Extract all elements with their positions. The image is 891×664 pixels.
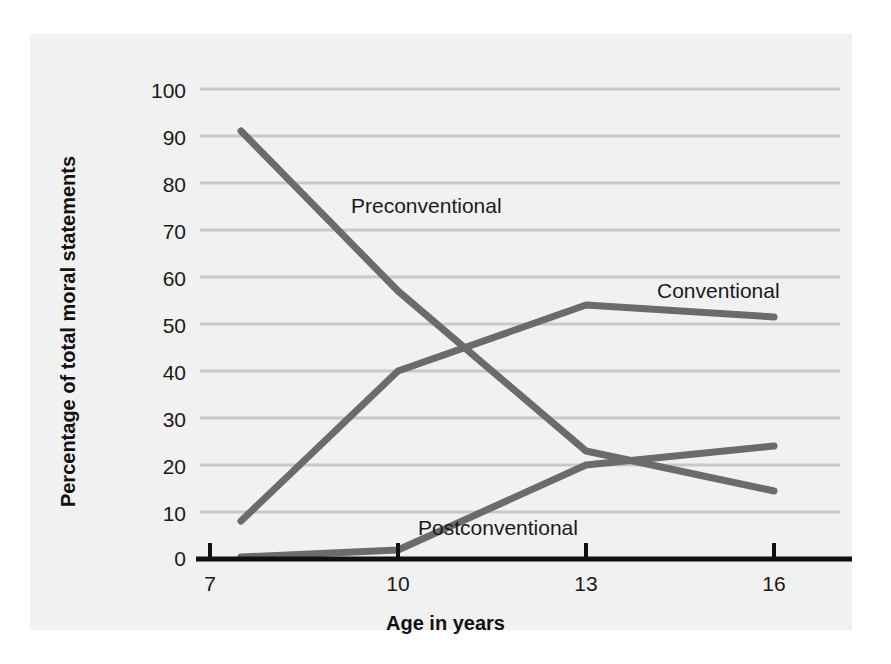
ytick-label-60: 60 xyxy=(126,268,186,289)
ytick-label-10: 10 xyxy=(126,503,186,524)
ytick-label-50: 50 xyxy=(126,315,186,336)
x-axis-title: Age in years xyxy=(0,612,891,635)
series-line-conventional xyxy=(241,305,774,521)
ytick-label-70: 70 xyxy=(126,221,186,242)
xtick-label-7: 7 xyxy=(180,573,240,594)
ytick-label-100: 100 xyxy=(126,80,186,101)
ytick-label-40: 40 xyxy=(126,362,186,383)
chart-figure: 100 90 80 70 60 50 40 30 20 10 0 7 10 13… xyxy=(0,0,891,664)
xtick-label-13: 13 xyxy=(556,573,616,594)
series-label-preconventional: Preconventional xyxy=(351,195,502,216)
y-axis-title: Percentage of total moral statements xyxy=(57,122,80,542)
xtick-label-16: 16 xyxy=(744,573,804,594)
xtick-label-10: 10 xyxy=(368,573,428,594)
series-label-conventional: Conventional xyxy=(657,280,780,301)
ytick-label-30: 30 xyxy=(126,409,186,430)
series-line-postconventional xyxy=(241,446,774,557)
ytick-label-0: 0 xyxy=(126,548,186,569)
ytick-label-20: 20 xyxy=(126,456,186,477)
ytick-label-90: 90 xyxy=(126,127,186,148)
ytick-label-80: 80 xyxy=(126,174,186,195)
series-label-postconventional: Postconventional xyxy=(418,517,578,538)
